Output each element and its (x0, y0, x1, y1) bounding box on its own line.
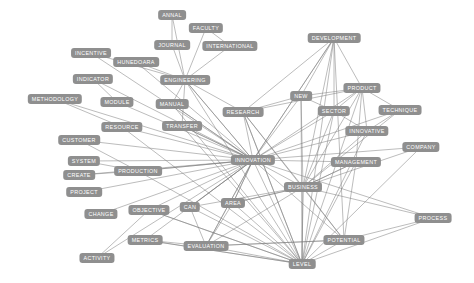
graph-edge (253, 160, 344, 240)
graph-node-evaluation[interactable]: EVALUATION (184, 241, 229, 251)
graph-node-sector[interactable]: SECTOR (318, 106, 350, 116)
network-graph-figure: ANNALFACULTYJOURNALINTERNATIONALDEVELOPM… (0, 0, 474, 283)
graph-node-management[interactable]: MANAGEMENT (331, 157, 381, 167)
graph-edge (362, 88, 367, 131)
graph-node-module[interactable]: MODULE (100, 97, 133, 107)
graph-edge (303, 187, 433, 218)
graph-node-innovation[interactable]: INNOVATION (231, 155, 275, 165)
graph-node-process[interactable]: PROCESS (415, 213, 452, 223)
graph-node-area[interactable]: AREA (221, 198, 245, 208)
graph-edge (302, 187, 303, 264)
graph-node-new[interactable]: NEW (290, 91, 312, 101)
graph-edge (253, 111, 334, 160)
graph-edge (334, 38, 362, 88)
graph-node-manual[interactable]: MANUAL (156, 99, 189, 109)
graph-node-indicator[interactable]: INDICATOR (73, 74, 113, 84)
graph-node-international[interactable]: INTERNATIONAL (202, 41, 257, 51)
graph-node-objective[interactable]: OBJECTIVE (128, 205, 169, 215)
graph-node-incentive[interactable]: INCENTIVE (71, 48, 111, 58)
graph-node-product[interactable]: PRODUCT (343, 83, 380, 93)
graph-node-potential[interactable]: POTENTIAL (323, 235, 364, 245)
graph-node-project[interactable]: PROJECT (66, 187, 102, 197)
graph-edge (84, 160, 253, 161)
graph-node-create[interactable]: CREATE (63, 170, 95, 180)
edges-group (55, 15, 433, 264)
graph-edge (303, 147, 421, 187)
graph-node-methodology[interactable]: METHODOLOGY (28, 94, 82, 104)
graph-node-development[interactable]: DEVELOPMENT (308, 33, 361, 43)
graph-node-technique[interactable]: TECHNIQUE (379, 105, 422, 115)
graph-node-customer[interactable]: CUSTOMER (58, 135, 100, 145)
graph-node-faculty[interactable]: FACULTY (189, 23, 223, 33)
graph-edge (206, 203, 233, 246)
graph-node-change[interactable]: CHANGE (84, 209, 117, 219)
graph-edge (253, 96, 301, 160)
graph-node-innovative[interactable]: INNOVATIVE (345, 126, 388, 136)
graph-node-can[interactable]: CAN (180, 202, 200, 212)
graph-node-research[interactable]: RESEARCH (223, 107, 264, 117)
graph-edge (253, 160, 433, 218)
graph-node-level[interactable]: LEVEL (289, 259, 316, 269)
graph-edge (93, 79, 253, 160)
graph-node-engineering[interactable]: ENGINEERING (160, 75, 210, 85)
graph-node-business[interactable]: BUSINESS (284, 182, 322, 192)
graph-edge (301, 38, 334, 96)
graph-node-company[interactable]: COMPANY (402, 142, 439, 152)
graph-edge (303, 111, 334, 187)
graph-node-metrics[interactable]: METRICS (128, 235, 163, 245)
graph-node-transfer[interactable]: TRANSFER (162, 121, 202, 131)
graph-node-resource[interactable]: RESOURCE (101, 122, 142, 132)
graph-edge (303, 88, 362, 187)
graph-node-system[interactable]: SYSTEM (68, 156, 100, 166)
graph-node-production[interactable]: PRODUCTION (114, 166, 162, 176)
graph-node-annal[interactable]: ANNAL (158, 10, 186, 20)
graph-node-activity[interactable]: ACTIVITY (79, 253, 114, 263)
graph-edge (149, 210, 302, 264)
graph-node-journal[interactable]: JOURNAL (154, 40, 190, 50)
graph-edge (243, 112, 344, 240)
graph-edge (253, 160, 302, 264)
graph-node-hunedoara[interactable]: HUNEDOARA (113, 57, 159, 67)
